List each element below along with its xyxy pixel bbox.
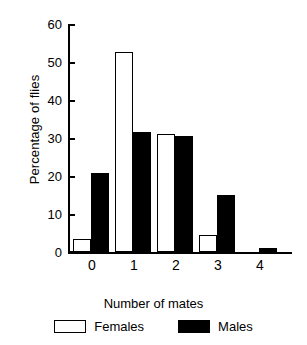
legend-entry-males: Males <box>178 320 253 333</box>
plot-area: 0 1 2 3 4 <box>68 24 292 252</box>
x-tick-label-2: 2 <box>156 258 196 272</box>
x-axis-line <box>68 252 292 254</box>
y-axis-tick-50 <box>70 62 75 64</box>
filled-square-swatch-icon <box>178 320 210 333</box>
y-axis-tick-30 <box>70 138 75 140</box>
y-tick-label-60: 60 <box>28 18 62 31</box>
y-tick-label-0: 0 <box>28 246 62 259</box>
chart-legend: Females Males <box>0 320 307 333</box>
bar-males-3 <box>217 195 235 252</box>
bar-males-4 <box>259 248 277 252</box>
x-tick-label-3: 3 <box>198 258 238 272</box>
legend-label-females: Females <box>94 320 144 333</box>
bar-females-2 <box>157 134 175 252</box>
y-axis-tick-10 <box>70 214 75 216</box>
bar-males-2 <box>175 136 193 252</box>
open-square-swatch-icon <box>54 320 86 333</box>
bar-females-1 <box>115 52 133 252</box>
bar-males-1 <box>133 132 151 252</box>
bar-males-0 <box>91 173 109 252</box>
y-tick-label-10: 10 <box>28 208 62 221</box>
legend-label-males: Males <box>218 320 253 333</box>
y-tick-label-40: 40 <box>28 94 62 107</box>
bar-chart-figure: Percentage of flies 60 50 40 30 20 10 0 … <box>0 0 307 345</box>
y-axis-tick-40 <box>70 100 75 102</box>
bar-females-3 <box>199 235 217 252</box>
x-tick-label-1: 1 <box>114 258 154 272</box>
y-axis-tick-60 <box>70 24 75 26</box>
y-axis-tick-20 <box>70 176 75 178</box>
y-tick-label-30: 30 <box>28 132 62 145</box>
x-tick-label-4: 4 <box>240 258 280 272</box>
bar-females-0 <box>73 239 91 252</box>
x-axis-label: Number of mates <box>0 296 307 311</box>
x-tick-label-0: 0 <box>72 258 112 272</box>
y-tick-label-50: 50 <box>28 56 62 69</box>
legend-entry-females: Females <box>54 320 144 333</box>
y-tick-label-20: 20 <box>28 170 62 183</box>
